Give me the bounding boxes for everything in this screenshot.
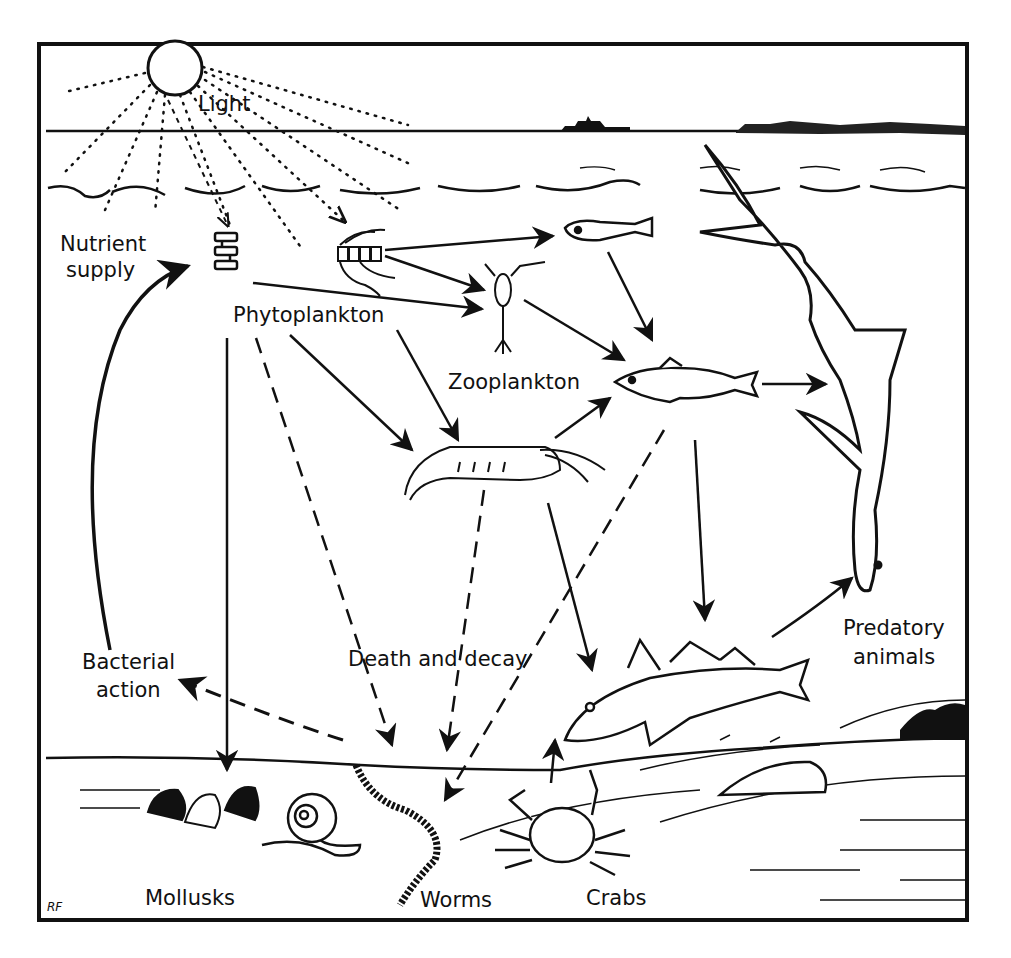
nutrient-supply-label-line1: Nutrient — [60, 232, 146, 257]
distant-land-icon — [736, 121, 965, 135]
clam-icon — [148, 787, 259, 828]
crab-icon — [495, 770, 630, 875]
artist-signature: RF — [47, 900, 62, 914]
crabs-label: Crabs — [586, 886, 646, 911]
bacterial-action-label-line1: Bacterial — [82, 650, 175, 675]
zooplankton-label: Zooplankton — [448, 370, 580, 395]
predatory-animals-label-line2: animals — [853, 645, 935, 670]
death-and-decay-label: Death and decay — [348, 647, 527, 672]
food-web-illustration — [0, 0, 1011, 958]
ship-icon — [560, 116, 630, 132]
phytoplankton-label: Phytoplankton — [233, 303, 384, 328]
shrimp-icon — [405, 447, 605, 500]
small-fish-icon — [615, 358, 757, 402]
light-label: Light — [198, 92, 250, 117]
rock-icon — [720, 762, 826, 795]
predatory-animals-label-line1: Predatory — [843, 616, 945, 641]
sea-surface-waves — [48, 166, 965, 197]
nutrient-supply-label-line2: supply — [66, 258, 135, 283]
diatom-icon — [215, 233, 237, 269]
mollusks-label: Mollusks — [145, 886, 235, 911]
seaweed-icon — [900, 703, 965, 740]
cod-icon — [565, 640, 808, 745]
snail-icon — [262, 794, 360, 856]
sun-icon — [148, 41, 202, 95]
larval-fish-icon — [565, 218, 652, 240]
worm-icon — [356, 765, 437, 905]
worms-label: Worms — [420, 888, 492, 913]
bacterial-action-label-line2: action — [96, 678, 161, 703]
shark-icon — [700, 145, 905, 591]
diatom-cluster-icon — [338, 230, 395, 296]
